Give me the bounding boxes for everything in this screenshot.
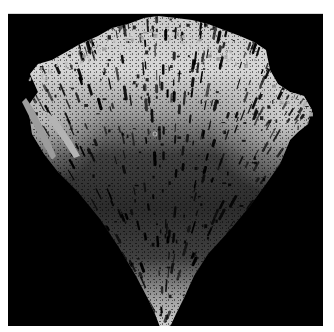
cone-body [8,14,323,326]
fractal-cone-render [8,14,323,326]
render-panel [8,13,323,326]
